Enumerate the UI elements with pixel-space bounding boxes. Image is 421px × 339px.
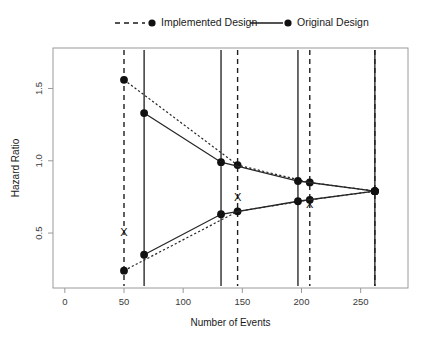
x-axis-title: Number of Events [190, 317, 270, 328]
x-annotation-marker: X [120, 226, 128, 238]
data-point [217, 158, 225, 166]
x-tick-label: 250 [353, 296, 369, 307]
data-point [294, 197, 302, 205]
x-tick-label: 200 [294, 296, 310, 307]
chart-canvas: Implemented DesignOriginal Design0501001… [0, 0, 421, 339]
data-point [371, 187, 379, 195]
series-line-2 [144, 113, 375, 191]
x-annotation-marker: X [306, 198, 314, 210]
x-tick-label: 0 [62, 296, 67, 307]
series-line-3 [144, 191, 375, 255]
data-point [140, 251, 148, 259]
plot-frame [53, 48, 408, 288]
data-point [294, 177, 302, 185]
x-tick-label: 100 [175, 296, 191, 307]
x-tick-label: 150 [234, 296, 250, 307]
legend-marker-implemented [148, 19, 155, 26]
legend-marker-original [284, 19, 291, 26]
series-line-0 [124, 80, 375, 191]
y-tick-label: 0.5 [33, 226, 44, 239]
x-tick-label: 50 [119, 296, 130, 307]
hazard-ratio-chart: Implemented DesignOriginal Design0501001… [0, 0, 421, 339]
data-point [140, 109, 148, 117]
x-annotation-marker: X [234, 191, 242, 203]
data-point [120, 267, 128, 275]
data-point [120, 76, 128, 84]
legend-label-original: Original Design [297, 16, 369, 28]
y-axis-title: Hazard Ratio [10, 138, 21, 197]
series-line-1 [124, 191, 375, 271]
data-point [217, 210, 225, 218]
y-tick-label: 1.0 [33, 154, 44, 167]
y-tick-label: 1.5 [33, 82, 44, 95]
legend-label-implemented: Implemented Design [161, 16, 257, 28]
